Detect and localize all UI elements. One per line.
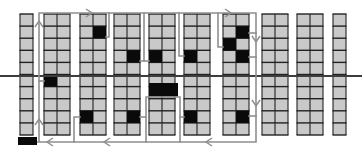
route-segment-4 bbox=[179, 13, 184, 56]
route-segment-12 bbox=[74, 117, 80, 142]
pick-cell-D-c1-r9 bbox=[127, 111, 140, 123]
pick-cell-wide-E bbox=[149, 83, 178, 97]
depot bbox=[18, 137, 37, 145]
route-segment-5 bbox=[218, 13, 223, 47]
pick-cell-F-c0-r9 bbox=[184, 111, 197, 123]
route-diagram-svg bbox=[0, 0, 362, 153]
pick-cell-G-c0-r3 bbox=[223, 38, 236, 50]
pick-cell-D-c1-r4 bbox=[127, 50, 140, 62]
pick-cell-C-c1-r2 bbox=[93, 26, 106, 38]
pick-cell-E-c0-r4 bbox=[149, 50, 162, 62]
warehouse-routing-diagram bbox=[0, 0, 362, 153]
pick-cell-G-c1-r2 bbox=[236, 26, 249, 38]
pick-cell-F-c0-r4 bbox=[184, 50, 197, 62]
pick-cell-C-c0-r9 bbox=[80, 111, 93, 123]
pick-cell-G-c1-r9 bbox=[236, 111, 249, 123]
pick-cell-G-c1-r4 bbox=[236, 50, 249, 62]
